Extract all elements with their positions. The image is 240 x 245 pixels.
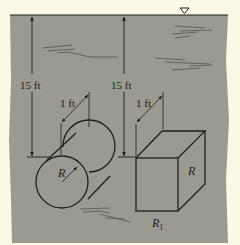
water-region — [9, 15, 229, 243]
box-side-label: R — [187, 164, 196, 178]
cylinder-length-label: 1 ft — [60, 97, 75, 109]
cylinder-radius-label: R — [57, 166, 66, 180]
cylinder-depth-label: 15 ft — [20, 79, 40, 91]
free-surface-symbol-icon — [180, 8, 189, 14]
box-depth-label: 15 ft — [111, 79, 131, 91]
box-length-label: 1 ft — [136, 97, 151, 109]
diagram-canvas: 15 ft 1 ft R 15 ft 1 f — [0, 0, 240, 245]
